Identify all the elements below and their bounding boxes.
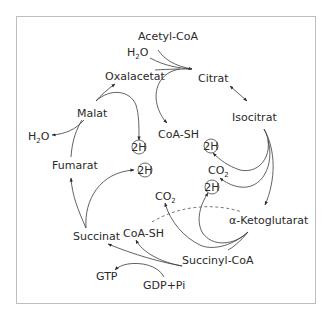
label-succinat: Succinat [73,230,121,243]
label-coa-sh-bottom: CoA-SH [123,227,164,240]
label-citrat: Citrat [198,72,229,85]
label-succinyl-coa: Succinyl-CoA [182,254,254,267]
label-gtp: GTP [96,270,118,283]
label-acetyl-coa: Acetyl-CoA [138,30,198,43]
2h-badge-malat: 2H [131,140,146,154]
2h-badge-succinat: 2H [137,163,152,177]
svg-text:2H: 2H [131,141,146,154]
label-alpha-ketoglutarat: α-Ketoglutarat [229,214,309,227]
label-isocitrat: Isocitrat [232,111,277,124]
label-malat: Malat [77,107,108,120]
2h-badge-isocitrat: 2H [203,139,218,153]
label-fumarat: Fumarat [52,159,98,172]
svg-text:2H: 2H [137,164,152,177]
citric-acid-cycle-diagram: 2H 2H 2H 2H Acetyl-CoA Oxalacetat Citrat… [0,0,326,319]
2h-badge-ketoglutarat: 2H [204,180,219,194]
svg-text:2H: 2H [204,181,219,194]
label-coa-sh-top: CoA-SH [158,128,199,141]
svg-text:2H: 2H [203,140,218,153]
label-gdp-pi: GDP+Pi [143,279,185,292]
label-oxalacetat: Oxalacetat [105,70,166,83]
